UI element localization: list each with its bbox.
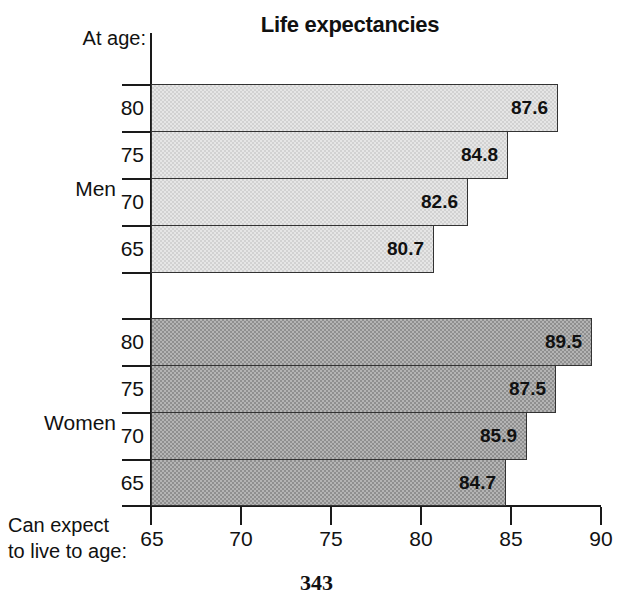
x-tick-75 [330, 507, 332, 525]
y-tick-label-men-75: 75 [92, 143, 144, 167]
x-tick-80 [420, 507, 422, 525]
x-tick-label-90: 90 [578, 527, 624, 551]
y-tick-women-bottom [122, 505, 152, 507]
bar-women-65: 84.7 [151, 459, 506, 506]
y-tick-men-top [122, 84, 152, 86]
bar-women-70: 85.9 [151, 412, 527, 460]
y-tick-women-1 [122, 365, 152, 367]
bar-men-75: 84.8 [151, 131, 508, 179]
x-tick-label-85: 85 [488, 527, 534, 551]
y-tick-men-3 [122, 225, 152, 227]
x-tick-90 [600, 507, 602, 525]
x-axis-title: Can expect to live to age: [0, 512, 146, 564]
y-tick-label-women-80: 80 [92, 330, 144, 354]
bar-value-men-75: 84.8 [461, 144, 498, 166]
x-tick-70 [240, 507, 242, 525]
x-axis-title-line2: to live to age: [8, 538, 146, 564]
bar-value-women-75: 87.5 [509, 378, 546, 400]
bar-value-men-65: 80.7 [387, 238, 424, 260]
x-tick-label-80: 80 [398, 527, 444, 551]
y-tick-women-2 [122, 412, 152, 414]
y-tick-men-2 [122, 178, 152, 180]
y-tick-women-3 [122, 459, 152, 461]
x-tick-label-70: 70 [218, 527, 264, 551]
bar-women-80: 89.5 [151, 318, 592, 366]
x-axis-title-line1: Can expect [8, 512, 146, 538]
y-tick-label-women-70: 70 [92, 424, 144, 448]
bar-value-women-65: 84.7 [459, 472, 496, 494]
bar-men-70: 82.6 [151, 178, 468, 226]
x-tick-label-75: 75 [308, 527, 354, 551]
y-axis-title: At age: [0, 27, 146, 50]
bar-value-women-80: 89.5 [545, 331, 582, 353]
x-tick-65 [150, 507, 152, 525]
bar-men-80: 87.6 [151, 84, 558, 132]
y-tick-label-men-70: 70 [92, 190, 144, 214]
bar-men-65: 80.7 [151, 225, 434, 273]
chart-title: Life expectancies [150, 12, 550, 38]
y-tick-men-bottom [122, 272, 152, 274]
bar-value-women-70: 85.9 [480, 425, 517, 447]
y-tick-label-women-65: 65 [92, 471, 144, 495]
y-tick-label-men-80: 80 [92, 96, 144, 120]
bar-value-men-70: 82.6 [421, 191, 458, 213]
y-tick-women-top [122, 318, 152, 320]
x-tick-85 [510, 507, 512, 525]
y-tick-men-1 [122, 131, 152, 133]
y-tick-label-men-65: 65 [92, 237, 144, 261]
bar-women-75: 87.5 [151, 365, 556, 413]
y-tick-label-women-75: 75 [92, 377, 144, 401]
life-expectancy-bar-chart: Life expectancies At age: Men 80 75 70 6… [0, 0, 633, 601]
bar-value-men-80: 87.6 [511, 97, 548, 119]
page-number: 343 [0, 570, 633, 596]
